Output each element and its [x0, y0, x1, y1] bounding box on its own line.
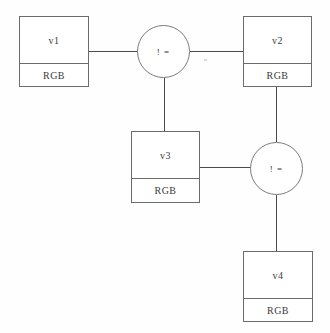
scan-artifact-speck	[204, 59, 207, 61]
edge-v2-to-relation-2	[276, 87, 277, 142]
entity-node-v1[interactable]: v1 RGB	[19, 16, 89, 87]
diagram-canvas: v1 RGB v2 RGB v3 RGB v4 RGB ! = ! =	[0, 0, 330, 333]
relation-node-2[interactable]: ! =	[250, 142, 303, 195]
entity-node-v4-attribute: RGB	[244, 299, 312, 321]
edge-relation-1-to-v2	[190, 51, 243, 52]
entity-node-v4[interactable]: v4 RGB	[243, 251, 313, 322]
edge-relation-1-to-v3	[164, 78, 165, 131]
edge-v1-to-relation-1	[89, 51, 138, 52]
entity-node-v3-attribute: RGB	[132, 179, 199, 202]
entity-node-v2-attribute: RGB	[244, 64, 311, 86]
entity-node-v1-label: v1	[20, 17, 88, 63]
entity-node-v4-label: v4	[244, 252, 312, 298]
relation-node-2-label: ! =	[270, 164, 283, 174]
entity-node-v1-attribute: RGB	[20, 64, 88, 86]
relation-node-1[interactable]: ! =	[137, 25, 190, 78]
entity-node-v2[interactable]: v2 RGB	[243, 16, 312, 87]
edge-v3-to-relation-2	[200, 167, 251, 168]
entity-node-v3-label: v3	[132, 132, 199, 178]
entity-node-v2-label: v2	[244, 17, 311, 63]
relation-node-1-label: ! =	[157, 47, 170, 57]
edge-relation-2-to-v4	[276, 195, 277, 251]
entity-node-v3[interactable]: v3 RGB	[131, 131, 200, 203]
